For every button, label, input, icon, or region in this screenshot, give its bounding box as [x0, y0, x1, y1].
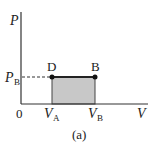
pv-diagram: P V 0 D B P B V A V B (a) [0, 0, 155, 146]
point-d [50, 75, 55, 80]
point-b-label: B [91, 59, 100, 74]
point-d-label: D [47, 59, 56, 74]
vb-tick-sub: B [97, 113, 103, 123]
origin-label: 0 [16, 106, 23, 121]
point-b [93, 75, 98, 80]
work-area [52, 77, 95, 104]
caption: (a) [72, 127, 86, 142]
pb-tick-sub: B [14, 77, 20, 87]
va-tick-sub: A [53, 113, 60, 123]
pb-tick-main: P [4, 70, 14, 85]
x-axis-label: V [137, 106, 147, 121]
y-axis-label: P [9, 13, 19, 28]
